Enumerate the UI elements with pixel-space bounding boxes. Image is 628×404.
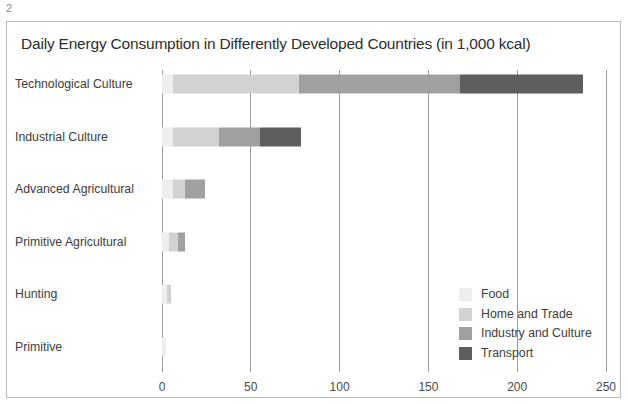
x-axis-tick-label: 100: [330, 380, 350, 394]
x-axis-tick-label: 150: [418, 380, 438, 394]
bar-segment: [173, 127, 219, 146]
legend-item: Home and Trade: [459, 307, 619, 321]
legend-item: Industry and Culture: [459, 326, 619, 340]
x-axis-tick-label: 0: [159, 380, 166, 394]
bar-segment: [460, 75, 583, 94]
bar-segment: [219, 127, 260, 146]
legend-swatch: [459, 347, 472, 360]
bar-segment: [299, 75, 461, 94]
bar-segment: [162, 180, 173, 199]
x-gridline: [250, 70, 251, 372]
bar-segment: [169, 232, 178, 251]
bar-segment: [162, 232, 169, 251]
x-axis-tick-label: 50: [244, 380, 257, 394]
legend-swatch: [459, 288, 472, 301]
bar-segment: [162, 75, 173, 94]
page-number: 2: [6, 2, 13, 14]
bar-row: [7, 75, 622, 94]
bar-segment: [260, 127, 301, 146]
chart-legend: FoodHome and TradeIndustry and CultureTr…: [459, 287, 619, 367]
legend-label: Industry and Culture: [481, 326, 592, 340]
x-axis-tick-label: 200: [507, 380, 527, 394]
legend-label: Home and Trade: [481, 307, 573, 321]
legend-label: Food: [481, 287, 509, 301]
x-gridline: [162, 70, 163, 372]
figure-frame: Daily Energy Consumption in Differently …: [6, 21, 621, 398]
bar-segment: [185, 180, 205, 199]
bar-segment: [167, 285, 171, 304]
bar-row: [7, 180, 622, 199]
bar-row: [7, 232, 622, 251]
bar-segment: [173, 75, 299, 94]
legend-label: Transport: [481, 346, 533, 360]
bar-segment: [173, 180, 185, 199]
bar-row: [7, 127, 622, 146]
legend-swatch: [459, 327, 472, 340]
x-axis-tick-label: 250: [596, 380, 616, 394]
legend-item: Transport: [459, 346, 619, 360]
legend-swatch: [459, 308, 472, 321]
legend-item: Food: [459, 287, 619, 301]
bar-segment: [178, 232, 185, 251]
bar-segment: [162, 127, 173, 146]
x-gridline: [339, 70, 340, 372]
x-gridline: [428, 70, 429, 372]
bar-segment: [162, 338, 166, 357]
